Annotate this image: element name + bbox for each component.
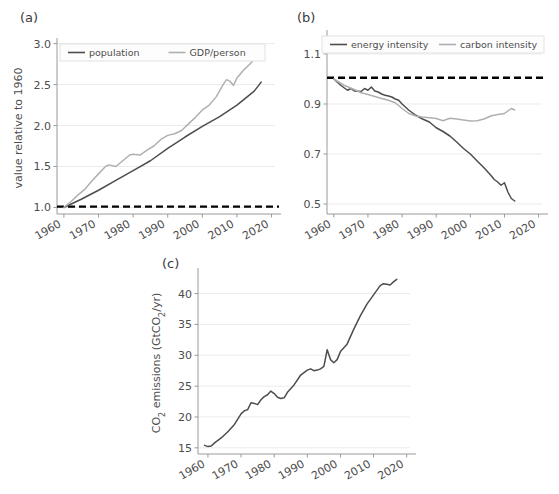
panel-a: (a) 1.01.52.02.53.0196019701980199020002… [0,0,290,250]
y-tick-label: 0.9 [304,98,322,111]
x-tick-label: 2010 [206,217,237,242]
x-tick-label: 2020 [507,217,538,242]
panel-b-plot: 0.50.70.91.11960197019801990200020102020… [285,0,559,250]
series-line [334,79,515,121]
y-tick-label: 0.5 [304,198,322,211]
x-tick-label: 2000 [439,217,470,242]
y-tick-label: 0.7 [304,148,322,161]
x-tick-label: 1990 [136,217,167,242]
panel-c: (c) 152025303540196019701980199020002010… [140,250,440,494]
panel-b: (b) 0.50.70.91.1196019701980199020002010… [285,0,559,250]
x-tick-label: 1980 [243,457,274,482]
y-tick-label: 25 [178,380,192,393]
x-tick-label: 2000 [309,457,340,482]
series-line [64,82,261,207]
x-tick-label: 1970 [337,217,368,242]
legend-label-1: energy intensity [351,39,429,50]
panel-c-label: (c) [162,256,179,271]
series-line [205,279,397,446]
y-axis-label: value relative to 1960 [12,67,25,188]
y-tick-label: 1.5 [34,160,52,173]
legend-label-2: GDP/person [190,47,246,58]
x-tick-label: 2000 [171,217,202,242]
x-tick-label: 1970 [210,457,241,482]
y-tick-label: 35 [178,318,192,331]
panel-b-label: (b) [297,10,315,25]
y-tick-label: 15 [178,442,192,455]
legend-label-1: population [89,47,140,58]
y-tick-label: 2.5 [34,79,52,92]
y-tick-label: 20 [178,411,192,424]
x-tick-label: 1960 [33,217,64,242]
x-tick-label: 2010 [473,217,504,242]
y-tick-label: 2.0 [34,120,52,133]
y-tick-label: 1.1 [304,48,322,61]
panel-a-plot: 1.01.52.02.53.01960197019801990200020102… [0,0,290,250]
x-tick-label: 2020 [240,217,271,242]
y-axis-label: CO2 emissions (GtCO2/yr) [150,293,167,434]
x-tick-label: 1990 [276,457,307,482]
y-tick-label: 40 [178,288,192,301]
panel-c-plot: 1520253035401960197019801990200020102020… [140,250,440,494]
x-tick-label: 1990 [405,217,436,242]
y-tick-label: 30 [178,349,192,362]
x-tick-label: 2020 [375,457,406,482]
y-tick-label: 1.0 [34,201,52,214]
series-line [334,79,515,201]
x-tick-label: 1960 [177,457,208,482]
panel-a-label: (a) [20,10,38,25]
series-line [64,49,261,207]
x-tick-label: 2010 [342,457,373,482]
x-tick-label: 1970 [67,217,98,242]
x-tick-label: 1960 [303,217,334,242]
legend-label-2: carbon intensity [460,39,537,50]
y-tick-label: 3.0 [34,38,52,51]
x-tick-label: 1980 [102,217,133,242]
x-tick-label: 1980 [371,217,402,242]
